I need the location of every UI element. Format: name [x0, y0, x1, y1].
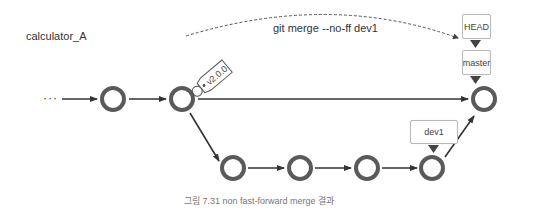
pointer-triangle: [470, 40, 481, 48]
commit-node: [222, 157, 244, 179]
commit-node: [171, 88, 193, 110]
figure-caption: 그림 7.31 non fast-forward merge 결과: [184, 194, 334, 207]
commit-node: [421, 157, 443, 179]
edge: [190, 113, 219, 161]
merge-commit-node: [473, 88, 495, 110]
commit-node: [356, 157, 378, 179]
commit-node: [102, 88, 124, 110]
master-ref: master: [462, 50, 491, 75]
dev1-ref: dev1: [410, 120, 458, 144]
head-ref: HEAD: [462, 14, 491, 39]
repo-label: calculator_A: [26, 30, 87, 42]
command-label: git merge --no-ff dev1: [273, 22, 378, 34]
pointer-triangle: [470, 76, 481, 84]
ellipsis: ···: [43, 91, 58, 105]
commit-node: [289, 157, 311, 179]
tag-icon: v2.0.0: [188, 60, 232, 101]
pointer-triangle: [428, 145, 439, 153]
